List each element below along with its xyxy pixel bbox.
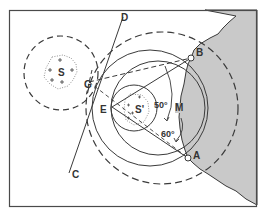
point-b-marker	[188, 55, 194, 61]
diagram-svg	[0, 0, 266, 219]
label-angle-60: 60°	[161, 129, 175, 139]
inner-circle-s-prime	[111, 85, 157, 131]
label-m: M	[175, 103, 183, 113]
angle-arc-50-arrow	[164, 117, 169, 121]
diagram-canvas: D B G E S S' 50° M 60° A C	[0, 0, 266, 219]
label-c: C	[72, 170, 79, 180]
line-eb	[112, 58, 191, 107]
label-g: G	[84, 80, 92, 90]
angle-arc-50	[165, 66, 172, 120]
label-e: E	[100, 105, 107, 115]
label-angle-50: 50°	[154, 100, 168, 110]
label-d: D	[121, 13, 128, 23]
land-mass	[179, 10, 257, 205]
label-s: S	[58, 68, 65, 78]
line-ea	[112, 107, 188, 158]
line-ga-dashed	[89, 82, 188, 158]
label-s-prime: S'	[135, 105, 144, 115]
label-b: B	[196, 48, 203, 58]
point-a-marker	[185, 155, 191, 161]
label-a: A	[193, 151, 200, 161]
